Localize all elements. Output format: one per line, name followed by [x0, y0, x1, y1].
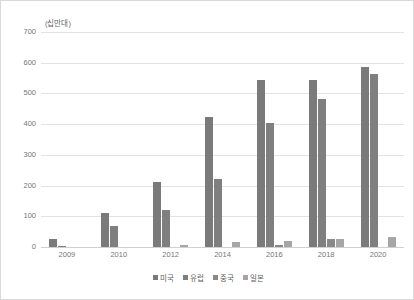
bar [361, 67, 369, 247]
bar [388, 237, 396, 247]
legend-item-일본[interactable]: 일본 [243, 272, 264, 283]
bar-group [352, 32, 404, 247]
y-axis-tick-label: 200 [23, 182, 36, 190]
y-axis-tick-label: 700 [23, 28, 36, 36]
legend-label: 유럽 [190, 272, 204, 283]
bar-group [248, 32, 300, 247]
bar [309, 80, 317, 247]
bar [275, 245, 283, 247]
bar [318, 99, 326, 247]
legend-item-중국[interactable]: 중국 [213, 272, 234, 283]
x-axis-tick-label: 2009 [59, 250, 76, 259]
bar [180, 245, 188, 247]
bar-group [145, 32, 197, 247]
legend-swatch-icon [153, 275, 158, 280]
legend-label: 중국 [220, 272, 234, 283]
chart-legend: 미국유럽중국일본 [1, 272, 414, 283]
y-axis-unit-label: (십만대) [45, 17, 71, 28]
legend-label: 미국 [160, 272, 174, 283]
bar [266, 123, 274, 247]
bar [284, 241, 292, 247]
x-axis-tick-label: 2010 [110, 250, 127, 259]
bar-group [300, 32, 352, 247]
bar [153, 182, 161, 247]
x-axis-tick-label: 2014 [214, 250, 231, 259]
gridline [41, 247, 404, 248]
legend-item-미국[interactable]: 미국 [153, 272, 174, 283]
bar [214, 179, 222, 247]
legend-swatch-icon [183, 275, 188, 280]
legend-label: 일본 [250, 272, 264, 283]
legend-item-유럽[interactable]: 유럽 [183, 272, 204, 283]
bar [110, 226, 118, 248]
y-axis-tick-label: 500 [23, 90, 36, 98]
y-axis-tick-label: 400 [23, 120, 36, 128]
y-axis-tick-label: 0 [32, 243, 36, 251]
x-axis-tick-label: 2016 [266, 250, 283, 259]
y-axis-tick-label: 600 [23, 59, 36, 67]
bar [162, 210, 170, 247]
x-axis-tick-label: 2018 [318, 250, 335, 259]
bar [205, 117, 213, 247]
y-axis-tick-label: 300 [23, 151, 36, 159]
bar-group [197, 32, 249, 247]
bar [336, 239, 344, 247]
x-axis-tick-label: 2020 [370, 250, 387, 259]
y-axis-tick-label: 100 [23, 213, 36, 221]
bar [49, 239, 57, 247]
bar-chart-figure: (십만대) 0100200300400500600700 20092010201… [0, 0, 414, 300]
bar [327, 239, 335, 247]
bar [257, 80, 265, 247]
x-axis-tick-label: 2012 [162, 250, 179, 259]
bar-group [93, 32, 145, 247]
bar [232, 242, 240, 247]
bar [101, 213, 109, 247]
plot-area: 0100200300400500600700 [41, 32, 404, 247]
legend-swatch-icon [213, 275, 218, 280]
bar [58, 246, 66, 247]
legend-swatch-icon [243, 275, 248, 280]
bars-layer [41, 32, 404, 247]
x-axis-ticks: 2009201020122014201620182020 [41, 250, 404, 264]
bar-group [41, 32, 93, 247]
bar [370, 74, 378, 247]
